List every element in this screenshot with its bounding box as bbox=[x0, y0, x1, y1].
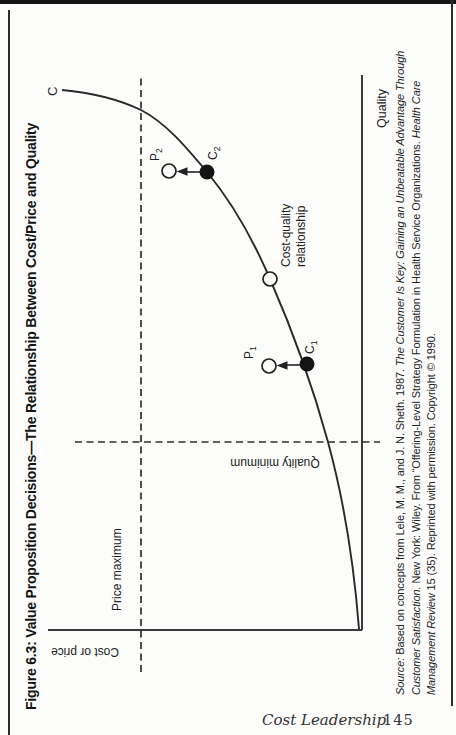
quality-minimum-label: Quality minimum bbox=[230, 456, 319, 470]
point-c2-dot bbox=[200, 165, 215, 180]
point-label-c2: C2 bbox=[206, 147, 222, 160]
source-line-2: Customer Satisfaction. New York: Wiley. … bbox=[409, 5, 425, 695]
source-line-1: Source: Based on concepts from Lele, M. … bbox=[393, 5, 409, 695]
arrow-c2-p2 bbox=[177, 167, 201, 176]
point-label-c1: C1 bbox=[303, 341, 319, 354]
cost-quality-point-circle bbox=[263, 272, 277, 286]
cost-quality-label-line2: relationship bbox=[294, 204, 309, 267]
point-label-p2: P2 bbox=[148, 148, 164, 161]
y-axis-label: Cost or price bbox=[51, 645, 119, 659]
point-label-p1: P1 bbox=[242, 346, 258, 359]
price-maximum-label: Price maximum bbox=[110, 528, 124, 611]
cost-quality-label-line1: Cost-quality bbox=[279, 204, 294, 267]
page-footer: Cost Leadership 145 bbox=[0, 711, 456, 733]
x-axis-label: Quality bbox=[375, 89, 389, 128]
source-line-3: Management Review 15 (35). Reprinted wit… bbox=[424, 5, 440, 695]
point-c1-dot bbox=[300, 357, 315, 372]
curve-c-label: C bbox=[45, 87, 60, 96]
source-citation: Source: Based on concepts from Lele, M. … bbox=[393, 5, 440, 695]
page-number: 145 bbox=[383, 712, 414, 728]
cost-quality-relationship-label: Cost-quality relationship bbox=[279, 204, 308, 267]
rotated-figure-container: Figure 6.3: Value Proposition Decisions—… bbox=[0, 0, 456, 735]
book-page: Figure 6.3: Value Proposition Decisions—… bbox=[0, 0, 456, 735]
point-p1-circle bbox=[262, 359, 276, 373]
point-p2-circle bbox=[162, 164, 176, 178]
arrow-c1-p1 bbox=[277, 361, 302, 370]
running-title: Cost Leadership bbox=[262, 711, 386, 729]
